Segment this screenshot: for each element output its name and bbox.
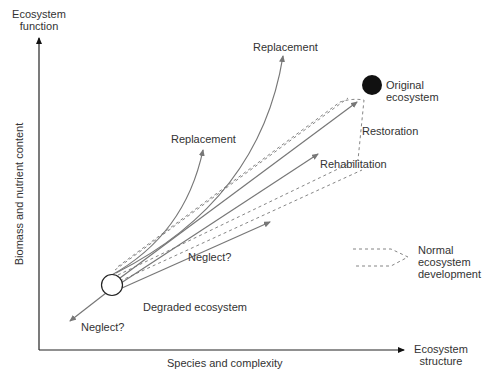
replacement-upper-label: Replacement [253,41,318,53]
neglect-lower-arrow [70,293,106,321]
legend-label: Normal ecosystem development [418,244,481,280]
y-axis-label: Biomass and nutrient content [13,114,25,274]
original-line2: ecosystem [386,91,439,103]
replacement-lower-label: Replacement [171,133,236,145]
legend-dashed-arrow [353,249,408,266]
degraded-ecosystem-node [102,275,123,296]
y-title-line2: function [8,20,70,32]
rehabilitation-arrow [121,154,318,283]
x-axis-label: Species and complexity [167,357,283,369]
y-title-line1: Ecosystem [8,8,70,20]
normal-development-envelope [116,99,364,275]
x-title-line1: Ecosystem [407,343,475,355]
restoration-label: Restoration [362,125,418,137]
original-ecosystem-label: Original ecosystem [386,79,439,103]
original-ecosystem-node [362,75,382,95]
y-axis-title: Ecosystem function [8,8,70,32]
restoration-arrow [120,102,357,278]
degraded-ecosystem-label: Degraded ecosystem [143,301,247,313]
rehabilitation-label: Rehabilitation [320,158,387,170]
original-line1: Original [386,79,439,91]
legend-line2: ecosystem [418,256,481,268]
diagram-canvas [0,0,493,388]
neglect-lower-label: Neglect? [81,321,124,333]
legend-line3: development [418,268,481,280]
x-title-line2: structure [407,355,475,367]
legend-line1: Normal [418,244,481,256]
x-axis-title: Ecosystem structure [407,343,475,367]
neglect-upper-label: Neglect? [188,251,231,263]
